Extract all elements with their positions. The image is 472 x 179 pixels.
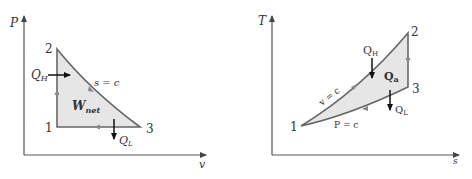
pv-process-label: s = c bbox=[94, 77, 120, 88]
ts-heat-out-label: QL bbox=[395, 104, 408, 117]
ts-state-2: 2 bbox=[411, 25, 419, 39]
thermo-cycle-diagrams: P v 2 1 3 QH QL s = c Wnet T s 2 3 1 QH bbox=[0, 0, 472, 179]
pv-diagram: P v 2 1 3 QH QL s = c Wnet bbox=[9, 16, 206, 171]
pv-state-2: 2 bbox=[45, 42, 53, 56]
pv-heat-in-label: QH bbox=[31, 68, 49, 83]
ts-y-axis-label: T bbox=[258, 14, 267, 28]
pv-heat-out-label: QL bbox=[119, 134, 133, 148]
pv-state-3: 3 bbox=[146, 122, 154, 136]
pv-x-axis-label: v bbox=[199, 158, 206, 171]
ts-state-3: 3 bbox=[412, 82, 420, 96]
pv-cycle-area bbox=[57, 49, 140, 127]
pv-state-1: 1 bbox=[45, 121, 53, 135]
pv-y-axis-label: P bbox=[9, 16, 19, 30]
ts-heat-in-label: QH bbox=[363, 44, 378, 58]
ts-state-1: 1 bbox=[290, 120, 298, 134]
ts-diagram: T s 2 3 1 QH Qa QL v = c P = c bbox=[258, 14, 459, 166]
ts-process-31-label: P = c bbox=[334, 120, 358, 130]
ts-x-axis-label: s bbox=[453, 156, 458, 166]
